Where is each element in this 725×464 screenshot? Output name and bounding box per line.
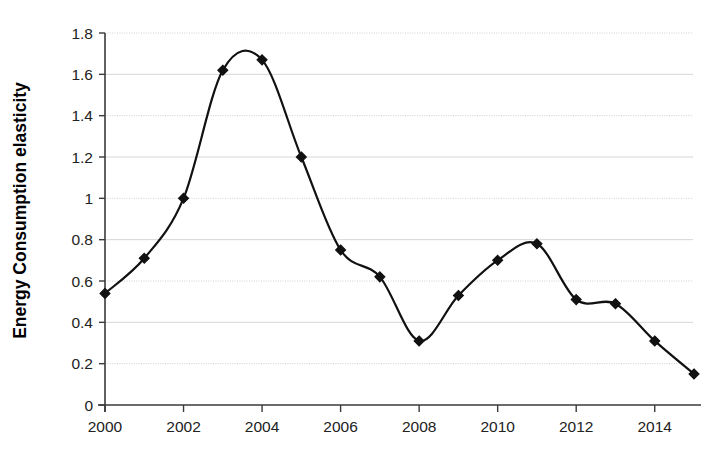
y-tick-label: 1.2 [71, 149, 93, 166]
y-tick-label: 0.2 [71, 355, 93, 372]
x-tick-label: 2008 [402, 418, 436, 435]
y-tick-label: 0.8 [71, 231, 93, 248]
y-tick-label: 0.6 [71, 273, 93, 290]
data-point-marker [179, 193, 189, 203]
data-point-markers [100, 55, 699, 379]
y-tick-label: 0.4 [71, 314, 93, 331]
series-line-energy-consumption-elasticity [105, 51, 694, 374]
y-tick-label: 1.8 [71, 25, 93, 42]
y-tick-label: 1 [84, 190, 93, 207]
x-tick-label: 2006 [323, 418, 357, 435]
x-tick-label: 2012 [559, 418, 593, 435]
y-tick-labels: 00.20.40.60.811.21.41.61.8 [71, 25, 93, 414]
x-tick-marks [105, 405, 655, 412]
plot-area: 00.20.40.60.811.21.41.61.8 2000200220042… [0, 0, 725, 464]
x-tick-label: 2010 [480, 418, 515, 435]
x-tick-label: 2000 [88, 418, 123, 435]
y-tick-label: 1.4 [71, 107, 93, 124]
y-tick-marks [99, 33, 105, 405]
data-point-marker [296, 152, 306, 162]
y-tick-label: 1.6 [71, 66, 93, 83]
data-point-marker [414, 336, 424, 346]
y-tick-label: 0 [84, 397, 93, 414]
line-chart: Energy Consumption elasticity 00.20.40.6… [0, 0, 725, 464]
data-point-marker [218, 65, 228, 75]
x-tick-label: 2002 [166, 418, 200, 435]
x-tick-labels: 20002002200420062008201020122014 [88, 418, 673, 435]
x-tick-label: 2014 [637, 418, 672, 435]
x-tick-label: 2004 [245, 418, 280, 435]
